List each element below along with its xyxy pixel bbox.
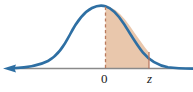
normal-distribution-figure: 0 z bbox=[0, 0, 193, 92]
x-axis-label-z: z bbox=[147, 72, 152, 85]
shaded-area-region bbox=[106, 7, 150, 69]
normal-curve-graphic bbox=[0, 0, 193, 92]
x-axis-label-zero: 0 bbox=[101, 72, 108, 85]
bell-curve-path bbox=[13, 6, 193, 69]
